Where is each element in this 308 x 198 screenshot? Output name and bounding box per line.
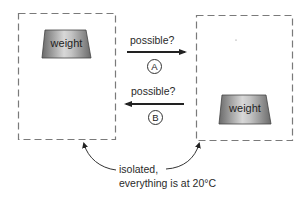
curved-arrow-right <box>166 144 199 169</box>
arrow-a-question: possible? <box>130 34 174 46</box>
right-weight-label: weight <box>219 102 271 114</box>
stray-dot <box>235 39 236 40</box>
caption-line-2: everything is at 20°C <box>119 177 216 190</box>
curved-arrow-left <box>84 144 116 170</box>
arrow-b-letter-badge: B <box>148 110 163 125</box>
caption-line-1: isolated, <box>119 163 158 176</box>
arrow-b-question: possible? <box>131 85 175 97</box>
left-weight-label: weight <box>42 37 91 49</box>
diagram-canvas: weight weight possible? A possible? B is… <box>0 0 308 198</box>
arrow-a-letter-badge: A <box>147 59 162 74</box>
